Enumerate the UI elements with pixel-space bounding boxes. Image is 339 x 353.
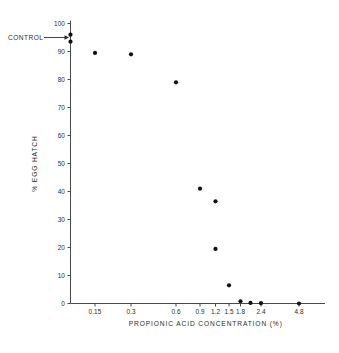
data-point-group bbox=[68, 33, 301, 306]
y-tick-label: 0 bbox=[61, 300, 65, 307]
y-tick-label: 80 bbox=[58, 76, 66, 83]
x-tick-label: 4.8 bbox=[294, 308, 304, 315]
y-tick-label: 20 bbox=[58, 244, 66, 251]
x-axis: 0.150.30.60.91.21.51.82.44.8 bbox=[71, 304, 326, 316]
data-point bbox=[198, 187, 202, 191]
data-point bbox=[227, 283, 231, 287]
y-tick-label: 50 bbox=[58, 160, 66, 167]
data-point bbox=[248, 301, 252, 305]
x-tick-label: 2.4 bbox=[256, 308, 266, 315]
data-point bbox=[259, 301, 263, 305]
data-point bbox=[93, 51, 97, 55]
data-point bbox=[174, 80, 178, 84]
y-axis: 0102030405060708090100 bbox=[54, 20, 70, 307]
x-tick-label: 0.15 bbox=[89, 308, 102, 315]
data-point bbox=[297, 301, 301, 305]
data-point bbox=[213, 247, 217, 251]
x-tick-label: 1.2 bbox=[211, 308, 221, 315]
x-axis-title: PROPIONIC ACID CONCENTRATION (%) bbox=[129, 320, 283, 328]
y-axis-title: % EGG HATCH bbox=[31, 135, 38, 191]
control-annotation-label: CONTROL bbox=[8, 34, 43, 41]
x-tick-label: 1.8 bbox=[236, 308, 246, 315]
egg-hatch-scatter-chart: 0102030405060708090100 0.150.30.60.91.21… bbox=[0, 0, 339, 353]
y-tick-label: 60 bbox=[58, 132, 66, 139]
x-tick-group: 0.150.30.60.91.21.51.82.44.8 bbox=[89, 304, 304, 316]
y-tick-label: 30 bbox=[58, 216, 66, 223]
data-point bbox=[68, 33, 72, 37]
y-tick-label: 90 bbox=[58, 48, 66, 55]
data-point bbox=[213, 199, 217, 203]
control-annotation: CONTROL bbox=[8, 34, 69, 41]
x-tick-label: 0.3 bbox=[126, 308, 136, 315]
data-point bbox=[129, 52, 133, 56]
y-tick-label: 100 bbox=[54, 20, 65, 27]
x-tick-label: 0.6 bbox=[171, 308, 181, 315]
control-arrow-head bbox=[65, 35, 70, 39]
y-tick-label: 70 bbox=[58, 104, 66, 111]
data-point bbox=[238, 299, 242, 303]
y-tick-label: 40 bbox=[58, 188, 66, 195]
chart-canvas: 0102030405060708090100 0.150.30.60.91.21… bbox=[0, 0, 339, 353]
x-tick-label: 0.9 bbox=[195, 308, 205, 315]
y-tick-label: 10 bbox=[58, 272, 66, 279]
y-tick-group: 0102030405060708090100 bbox=[54, 20, 70, 307]
x-tick-label: 1.5 bbox=[224, 308, 234, 315]
data-point bbox=[68, 40, 72, 44]
